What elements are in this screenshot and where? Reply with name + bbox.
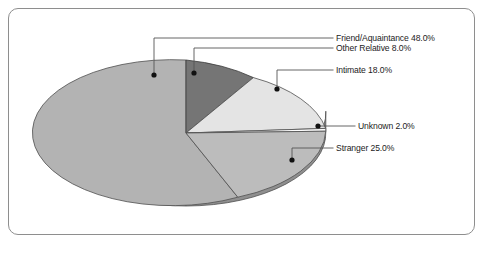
pie-label-intimate: Intimate 18.0%: [336, 65, 392, 75]
leader-dot-other-relative: [191, 70, 196, 75]
pie-label-other-relative: Other Relative 8.0%: [336, 43, 411, 53]
leader-dot-friend: [151, 72, 156, 77]
leader-dot-unknown: [315, 123, 320, 128]
pie-label-unknown: Unknown 2.0%: [358, 121, 415, 131]
pie-label-friend: Friend/Aquaintance 48.0%: [336, 33, 435, 43]
leader-dot-intimate: [274, 86, 279, 91]
chart-figure: Friend/Aquaintance 48.0% Other Relative …: [0, 0, 494, 260]
pie-label-stranger: Stranger 25.0%: [336, 143, 394, 153]
leader-line-intimate: [277, 70, 333, 89]
leader-dot-stranger: [289, 157, 294, 162]
